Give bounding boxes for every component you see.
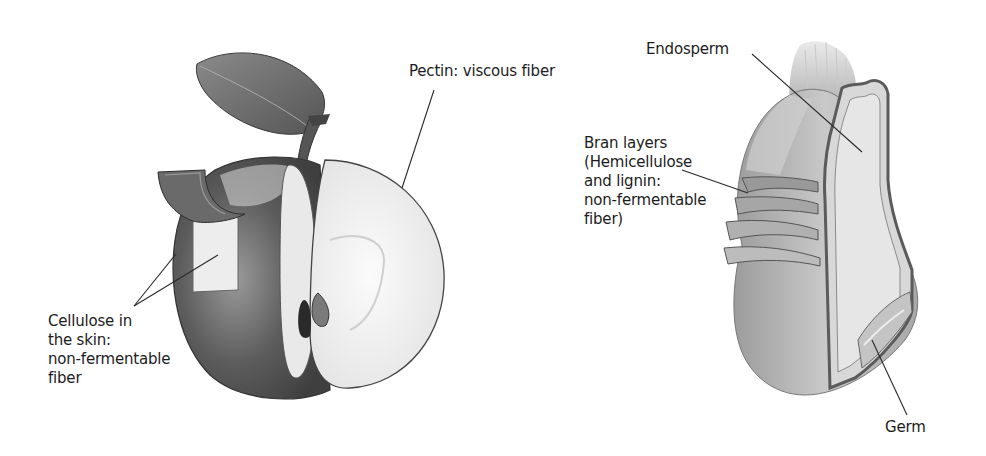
label-cellulose: Cellulose in the skin: non-fermentable f…: [48, 312, 170, 388]
label-line: and lignin:: [584, 172, 706, 191]
label-line: Pectin: viscous fiber: [409, 62, 555, 81]
fiber-diagram: Pectin: viscous fiber Cellulose in the s…: [0, 0, 986, 456]
label-line: Bran layers: [584, 134, 706, 153]
label-line: non-fermentable: [584, 191, 706, 210]
label-pectin: Pectin: viscous fiber: [409, 62, 555, 81]
label-line: non-fermentable: [48, 350, 170, 369]
grain-illustration: [724, 41, 918, 395]
label-line: Endosperm: [646, 40, 729, 59]
label-line: the skin:: [48, 331, 170, 350]
label-line: Germ: [885, 418, 926, 437]
label-line: fiber): [584, 210, 706, 229]
label-line: fiber: [48, 369, 170, 388]
label-line: (Hemicellulose: [584, 153, 706, 172]
cellulose-leader-line-a: [134, 254, 176, 306]
label-endosperm: Endosperm: [646, 40, 729, 59]
label-bran-layers: Bran layers (Hemicellulose and lignin: n…: [584, 134, 706, 229]
label-line: Cellulose in: [48, 312, 170, 331]
apple-illustration: [158, 53, 444, 399]
label-germ: Germ: [885, 418, 926, 437]
pectin-leader-line: [402, 90, 434, 188]
